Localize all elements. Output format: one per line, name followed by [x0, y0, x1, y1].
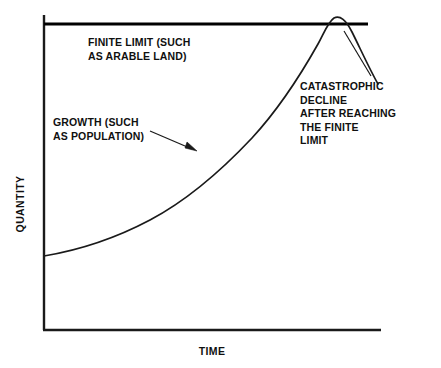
y-axis-label: QUANTITY [14, 169, 26, 239]
chart-figure: FINITE LIMIT (SUCH AS ARABLE LAND) GROWT… [0, 0, 441, 368]
annotation-growth: GROWTH (SUCH AS POPULATION) [53, 116, 144, 143]
x-axis-label: TIME [43, 345, 381, 357]
annotation-finite-limit: FINITE LIMIT (SUCH AS ARABLE LAND) [88, 36, 190, 63]
plot-background [0, 0, 441, 368]
annotation-catastrophic-decline: CATASTROPHIC DECLINE AFTER REACHING THE … [300, 80, 396, 148]
chart-plot-area [0, 0, 441, 368]
